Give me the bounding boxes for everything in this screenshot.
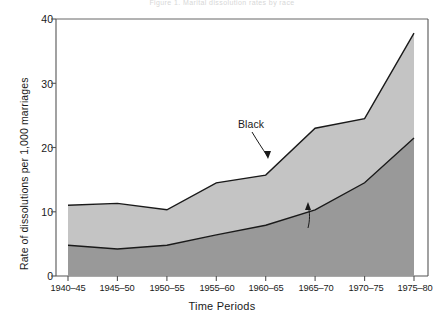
chart-plot-area — [0, 0, 444, 323]
chart-figure: Figure 1. Marital dissolution rates by r… — [0, 0, 444, 323]
y-axis-ticks — [51, 19, 56, 276]
x-axis-ticks — [68, 276, 414, 281]
annotation-leader-black — [252, 132, 271, 159]
